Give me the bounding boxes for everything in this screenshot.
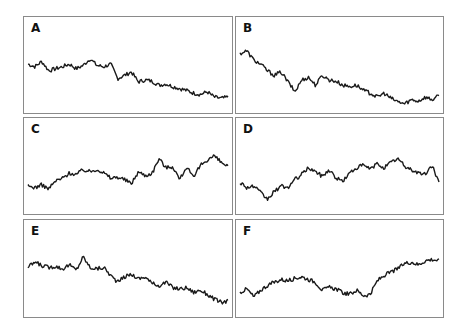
line-plot [236, 17, 445, 115]
panel-label: C [31, 122, 40, 136]
panel-label: E [31, 224, 39, 238]
panel-d: D [235, 117, 444, 215]
line-plot [236, 220, 445, 319]
panel-c: C [23, 117, 233, 215]
panel-f: F [235, 219, 444, 318]
panel-e: E [23, 219, 233, 318]
line-plot [24, 118, 234, 216]
panel-label: F [243, 224, 251, 238]
line-plot [24, 220, 234, 319]
panel-a: A [23, 16, 233, 114]
line-plot [236, 118, 445, 216]
panel-label: D [243, 122, 253, 136]
panel-label: A [31, 21, 40, 35]
panel-b: B [235, 16, 444, 114]
line-plot [24, 17, 234, 115]
panel-label: B [243, 21, 252, 35]
